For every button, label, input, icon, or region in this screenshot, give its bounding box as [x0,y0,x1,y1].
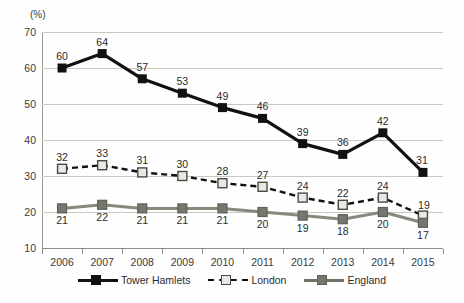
x-tick-mark-9 [403,249,404,254]
x-tick-mark-8 [363,249,364,254]
gridline-40 [42,140,443,141]
data-label-tower-hamlets-2011: 46 [257,101,269,112]
data-label-london-2012: 24 [297,181,309,192]
data-label-london-2006: 32 [56,152,68,163]
x-tick-label-2015: 2015 [411,256,434,268]
data-label-tower-hamlets-2013: 36 [337,137,349,148]
data-label-tower-hamlets-2009: 53 [177,76,189,87]
data-label-tower-hamlets-2007: 64 [96,37,108,48]
x-tick-label-2007: 2007 [90,256,113,268]
x-tick-mark-3 [162,249,163,254]
x-tick-mark-2 [122,249,123,254]
legend-item-london[interactable]: London [208,274,286,286]
y-tick-label-60: 60 [10,62,36,74]
legend-marker-square-icon [317,275,327,285]
y-tick-label-50: 50 [10,98,36,110]
y-tick-label-40: 40 [10,134,36,146]
y-tick-label-10: 10 [10,242,36,254]
x-tick-mark-4 [202,249,203,254]
x-tick-label-2010: 2010 [211,256,234,268]
data-label-england-2009: 21 [177,215,189,226]
x-tick-mark-1 [82,249,83,254]
x-tick-label-2006: 2006 [50,256,73,268]
data-label-england-2010: 21 [217,215,229,226]
x-tick-mark-6 [283,249,284,254]
data-label-london-2010: 28 [217,166,229,177]
legend-swatch-icon [78,274,118,286]
x-tick-mark-0 [42,249,43,254]
legend-label: Tower Hamlets [121,274,190,286]
x-tick-label-2011: 2011 [251,256,274,268]
data-label-england-2013: 18 [337,226,349,237]
legend-label: London [251,274,286,286]
legend-label: England [347,274,386,286]
data-label-tower-hamlets-2010: 49 [217,91,229,102]
gridline-70 [42,32,443,33]
x-tick-label-2009: 2009 [171,256,194,268]
line-chart: (%) 70605040302010 606457534946393642313… [0,0,464,303]
x-tick-label-2014: 2014 [371,256,394,268]
data-label-london-2015: 19 [418,200,430,211]
data-label-england-2007: 22 [96,212,108,223]
gridline-30 [42,176,443,177]
data-label-london-2008: 31 [136,155,148,166]
x-tick-label-2013: 2013 [331,256,354,268]
legend-marker-square-icon [221,275,231,285]
legend-item-tower-hamlets[interactable]: Tower Hamlets [78,274,190,286]
data-label-england-2012: 19 [297,223,309,234]
y-tick-label-30: 30 [10,170,36,182]
legend-marker-square-icon [91,275,101,285]
data-label-london-2009: 30 [177,159,189,170]
data-label-england-2015: 17 [417,230,429,241]
data-label-tower-hamlets-2014: 42 [377,116,389,127]
data-label-london-2011: 27 [257,170,269,181]
legend-swatch-icon [304,274,344,286]
data-label-london-2013: 22 [337,188,349,199]
data-label-england-2014: 20 [377,219,389,230]
data-label-tower-hamlets-2012: 39 [297,127,309,138]
data-label-tower-hamlets-2008: 57 [136,62,148,73]
legend-swatch-icon [208,274,248,286]
data-label-london-2007: 33 [96,148,108,159]
data-label-tower-hamlets-2015: 31 [416,155,428,166]
x-tick-mark-5 [243,249,244,254]
data-label-england-2008: 21 [136,215,148,226]
data-label-england-2011: 20 [257,219,269,230]
chart-legend: Tower HamletsLondonEngland [0,274,464,286]
y-axis-tick-labels: 70605040302010 [8,0,36,303]
gridline-50 [42,104,443,105]
data-label-tower-hamlets-2006: 60 [56,51,68,62]
y-tick-label-20: 20 [10,206,36,218]
gridline-60 [42,68,443,69]
data-label-england-2006: 21 [56,215,68,226]
data-label-london-2014: 24 [377,181,389,192]
legend-item-england[interactable]: England [304,274,386,286]
x-tick-mark-last [443,249,444,254]
y-tick-label-70: 70 [10,26,36,38]
x-tick-label-2008: 2008 [131,256,154,268]
x-tick-label-2012: 2012 [291,256,314,268]
x-tick-mark-7 [323,249,324,254]
